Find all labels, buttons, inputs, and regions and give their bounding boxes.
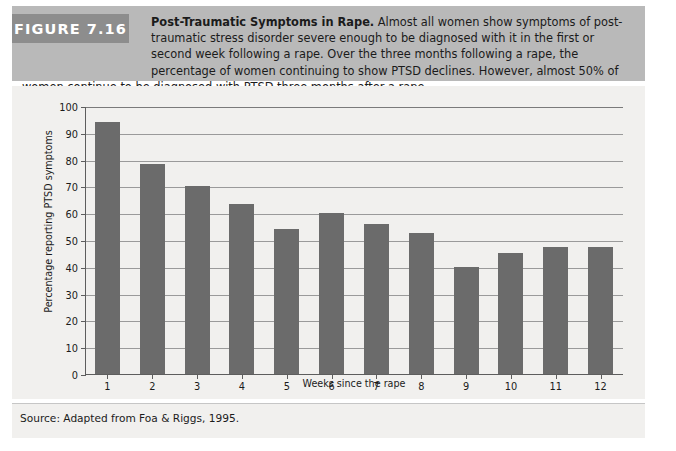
bar-week-8 xyxy=(409,233,434,374)
gridline xyxy=(85,134,623,135)
x-axis-title: Weeks since the rape xyxy=(85,378,623,389)
bar-week-3 xyxy=(185,186,210,374)
bar-week-6 xyxy=(319,213,344,374)
bar-week-2 xyxy=(140,164,165,374)
y-tick-label: 0 xyxy=(72,370,78,381)
y-tick-mark xyxy=(81,107,86,108)
bar-week-1 xyxy=(95,122,120,374)
y-tick-mark xyxy=(81,348,86,349)
y-tick-mark xyxy=(81,161,86,162)
y-tick-mark xyxy=(81,214,86,215)
chart-panel: Percentage reporting PTSD symptoms 01020… xyxy=(12,86,645,399)
y-tick-mark xyxy=(81,321,86,322)
y-axis-title: Percentage reporting PTSD symptoms xyxy=(43,122,54,322)
y-tick-mark xyxy=(81,268,86,269)
bar-week-11 xyxy=(543,247,568,374)
y-tick-mark xyxy=(81,375,86,376)
y-tick-label: 30 xyxy=(66,289,78,300)
y-tick-label: 10 xyxy=(66,343,78,354)
bar-week-7 xyxy=(364,224,389,374)
y-tick-label: 100 xyxy=(59,102,78,113)
y-tick-mark xyxy=(81,241,86,242)
figure-title: Post-Traumatic Symptoms in Rape. xyxy=(151,15,374,29)
plot-area: 0102030405060708090100123456789101112 xyxy=(85,107,623,375)
y-tick-label: 40 xyxy=(66,262,78,273)
y-tick-label: 60 xyxy=(66,209,78,220)
bar-week-12 xyxy=(588,247,613,374)
source-note: Source: Adapted from Foa & Riggs, 1995. xyxy=(20,412,239,424)
gridline xyxy=(85,214,623,215)
gridline xyxy=(85,187,623,188)
y-tick-label: 80 xyxy=(66,155,78,166)
y-tick-label: 70 xyxy=(66,182,78,193)
bar-week-9 xyxy=(454,267,479,374)
source-divider xyxy=(12,403,645,404)
figure-number-badge: FIGURE 7.16 xyxy=(12,14,129,43)
gridline xyxy=(85,107,623,108)
gridline xyxy=(85,161,623,162)
x-axis-line xyxy=(85,374,623,375)
bar-week-5 xyxy=(274,229,299,374)
figure-page: Post-Traumatic Symptoms in Rape. Almost … xyxy=(0,0,676,451)
y-tick-mark xyxy=(81,187,86,188)
y-tick-label: 90 xyxy=(66,128,78,139)
y-tick-label: 20 xyxy=(66,316,78,327)
bar-week-10 xyxy=(498,253,523,374)
y-tick-mark xyxy=(81,295,86,296)
gridline xyxy=(85,241,623,242)
y-tick-mark xyxy=(81,134,86,135)
y-tick-label: 50 xyxy=(66,236,78,247)
bar-week-4 xyxy=(229,204,254,374)
